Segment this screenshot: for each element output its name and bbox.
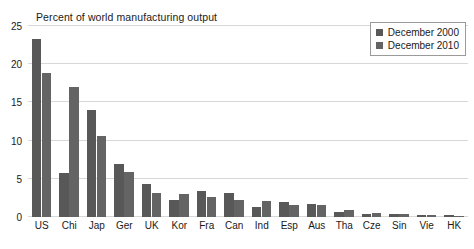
bar: [197, 191, 206, 217]
bar-group: [197, 26, 217, 217]
bar: [362, 214, 371, 217]
bar: [169, 200, 178, 217]
y-axis-tick-label: 10: [11, 135, 22, 146]
x-axis-tick-label: Jap: [89, 220, 105, 231]
bar: [307, 204, 316, 217]
x-axis-tick-label: Ind: [255, 220, 269, 231]
bar-chart: Percent of world manufacturing output 05…: [0, 0, 474, 249]
bar: [334, 212, 343, 217]
bar: [32, 39, 41, 217]
bar: [142, 184, 151, 217]
legend-item-series-0: December 2000: [376, 26, 459, 39]
bar-group: [307, 26, 327, 217]
bar: [87, 110, 96, 217]
x-axis-tick-label: Ger: [116, 220, 133, 231]
bar: [114, 164, 123, 217]
x-axis-tick-label: Cze: [363, 220, 381, 231]
bar: [427, 215, 436, 217]
bar: [399, 214, 408, 217]
legend-swatch-icon: [376, 42, 383, 49]
x-axis-tick-label: Chi: [62, 220, 77, 231]
x-axis-tick-label: Tha: [336, 220, 353, 231]
bar-group: [142, 26, 162, 217]
y-axis: 0510152025: [0, 26, 26, 217]
bar-group: [59, 26, 79, 217]
bar: [207, 197, 216, 217]
x-axis-tick-label: Vie: [420, 220, 434, 231]
bar: [389, 214, 398, 217]
bar: [69, 87, 78, 217]
x-axis: USChiJapGerUKKorFraCanIndEspAusThaCzeSin…: [28, 220, 468, 240]
bar: [289, 205, 298, 217]
x-axis-tick-label: Esp: [281, 220, 298, 231]
y-axis-tick-label: 25: [11, 21, 22, 32]
x-axis-tick-label: HK: [447, 220, 461, 231]
y-axis-tick-label: 15: [11, 97, 22, 108]
bar: [42, 73, 51, 217]
bar-group: [114, 26, 134, 217]
bar-group: [252, 26, 272, 217]
bar: [454, 216, 463, 217]
bar-group: [87, 26, 107, 217]
x-axis-tick-label: Can: [225, 220, 243, 231]
legend-item-series-1: December 2010: [376, 39, 459, 52]
bar: [234, 200, 243, 217]
bar: [417, 215, 426, 217]
bar: [372, 213, 381, 217]
bar: [124, 172, 133, 217]
x-axis-tick-label: US: [35, 220, 49, 231]
bar: [279, 202, 288, 217]
x-axis-tick-label: Fra: [199, 220, 214, 231]
bar-group: [169, 26, 189, 217]
bar: [252, 207, 261, 217]
x-axis-tick-label: Aus: [308, 220, 325, 231]
bar: [152, 193, 161, 217]
bar: [224, 193, 233, 217]
bar: [262, 201, 271, 217]
bar: [317, 205, 326, 217]
bar-group: [32, 26, 52, 217]
bar-group: [334, 26, 354, 217]
bar: [179, 194, 188, 217]
legend-item-label: December 2000: [388, 27, 459, 38]
legend-swatch-icon: [376, 29, 383, 36]
x-axis-tick-label: Kor: [171, 220, 187, 231]
bar-group: [224, 26, 244, 217]
x-axis-tick-label: UK: [145, 220, 159, 231]
bar: [97, 136, 106, 217]
chart-title: Percent of world manufacturing output: [36, 11, 217, 23]
bar-group: [279, 26, 299, 217]
bar: [344, 210, 353, 217]
y-axis-tick-label: 0: [16, 212, 22, 223]
legend-item-label: December 2010: [388, 40, 459, 51]
y-axis-tick-label: 20: [11, 59, 22, 70]
bar: [59, 173, 68, 217]
chart-legend: December 2000 December 2010: [370, 22, 466, 56]
x-axis-tick-label: Sin: [392, 220, 406, 231]
bar: [444, 215, 453, 217]
y-axis-tick-label: 5: [16, 173, 22, 184]
